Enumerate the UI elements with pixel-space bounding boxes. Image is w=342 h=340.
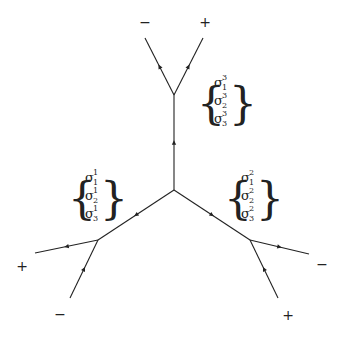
bracket-entry: σ 2 3 bbox=[241, 204, 254, 223]
svg-text:3: 3 bbox=[93, 214, 98, 223]
brace-close: } bbox=[100, 173, 128, 224]
bracket-entry: σ 2 1 bbox=[241, 168, 254, 187]
bracket-left: { σ 1 1 σ 1 2 σ 1 3 } bbox=[68, 168, 128, 224]
svg-text:1: 1 bbox=[93, 186, 98, 195]
bracket-entry: σ 2 2 bbox=[241, 186, 254, 205]
arrow-icon bbox=[64, 244, 69, 248]
sign-labels: −++−−+ bbox=[16, 14, 328, 323]
svg-text:2: 2 bbox=[249, 168, 254, 177]
bracket-top: { σ 3 1 σ 3 2 σ 3 3 } bbox=[197, 73, 257, 129]
bracket-entry: σ 3 1 bbox=[214, 73, 227, 92]
arrow-icon bbox=[172, 140, 176, 145]
edges bbox=[35, 38, 309, 298]
svg-text:2: 2 bbox=[249, 186, 254, 195]
svg-text:3: 3 bbox=[222, 73, 227, 82]
bracket-entry: σ 3 3 bbox=[214, 109, 227, 128]
brace-close: } bbox=[256, 173, 284, 224]
bracket-entry: σ 1 1 bbox=[85, 168, 98, 187]
minus-sign: − bbox=[316, 256, 328, 272]
plus-sign: + bbox=[199, 14, 211, 30]
svg-text:1: 1 bbox=[93, 168, 98, 177]
bracket-entry: σ 1 2 bbox=[85, 186, 98, 205]
svg-text:3: 3 bbox=[222, 109, 227, 118]
svg-text:3: 3 bbox=[222, 119, 227, 128]
svg-text:2: 2 bbox=[249, 204, 254, 213]
svg-text:1: 1 bbox=[93, 204, 98, 213]
bracket-entry: σ 3 2 bbox=[214, 91, 227, 110]
minus-sign: − bbox=[139, 14, 151, 30]
bracket-right: { σ 2 1 σ 2 2 σ 2 3 } bbox=[224, 168, 284, 224]
minus-sign: − bbox=[54, 306, 66, 322]
arrow-icon bbox=[277, 244, 282, 248]
svg-text:3: 3 bbox=[249, 214, 254, 223]
tree-diagram: −++−−+ { σ 1 1 σ 1 2 σ 1 3 } { σ 2 1 σ 2 bbox=[0, 0, 342, 340]
svg-text:3: 3 bbox=[222, 91, 227, 100]
plus-sign: + bbox=[16, 258, 28, 274]
plus-sign: + bbox=[282, 307, 294, 323]
bracket-entry: σ 1 3 bbox=[85, 204, 98, 223]
brace-close: } bbox=[229, 78, 257, 129]
